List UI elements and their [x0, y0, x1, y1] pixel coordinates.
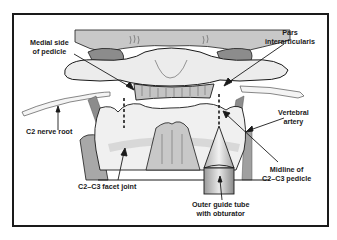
right-nerve-root	[240, 86, 304, 98]
label-outer-guide-tube: Outer guide tube with obturator	[192, 201, 250, 218]
label-midline-of-c2-c3-pedicle: Midline of C2–C3 pedicle	[262, 166, 311, 183]
label-pars-interarticularis: Pars interarticularis	[265, 29, 315, 46]
label-c2-nerve-root: C2 nerve root	[26, 128, 72, 137]
label-c2-c3-facet-joint: C2–C3 facet joint	[78, 183, 136, 192]
label-vertebral-artery: Vertebral artery	[278, 109, 309, 126]
label-medial-side-of-pedicle: Medial side of pedicle	[30, 39, 69, 56]
